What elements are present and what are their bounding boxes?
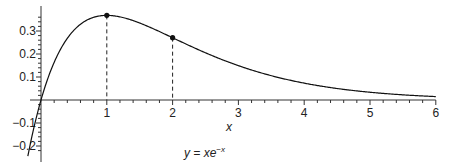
axes	[30, 6, 436, 162]
x-tick-label: 4	[301, 106, 308, 120]
function-plot: 1234560.30.20.1−0.1−0.2 x	[0, 0, 451, 168]
data-point	[104, 13, 109, 18]
caption-text: y = xe	[184, 146, 216, 160]
curve-xe-neg-x	[28, 15, 436, 156]
highlighted-points	[104, 13, 175, 41]
droplines	[107, 15, 173, 100]
y-tick-label: 0.3	[19, 24, 36, 38]
x-axis-title: x	[225, 120, 233, 134]
caption-exponent: −x	[216, 145, 225, 154]
y-tick-label: −0.2	[12, 139, 36, 153]
data-point	[170, 35, 175, 40]
x-tick-label: 3	[235, 106, 242, 120]
x-tick-label: 5	[367, 106, 374, 120]
x-tick-label: 6	[432, 106, 439, 120]
x-tick-label: 1	[103, 106, 110, 120]
x-tick-label: 2	[169, 106, 176, 120]
y-tick-label: −0.1	[12, 116, 36, 130]
ticks	[36, 17, 436, 150]
y-tick-label: 0.1	[19, 70, 36, 84]
caption: y = xe−x	[184, 145, 225, 160]
y-tick-label: 0.2	[19, 47, 36, 61]
